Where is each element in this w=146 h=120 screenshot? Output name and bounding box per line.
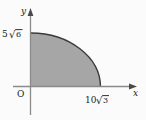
x-intercept-coefficient: 10 (85, 95, 97, 105)
shaded-region (31, 33, 101, 87)
origin-label: O (17, 89, 24, 99)
y-intercept-radicand: 6 (16, 30, 21, 39)
x-intercept-radical-icon: √ (96, 95, 103, 106)
y-axis-arrowhead (28, 8, 34, 16)
x-intercept-radicand: 3 (103, 96, 108, 105)
x-intercept-tick-label: 10 √ 3 (85, 95, 109, 106)
quarter-ellipse-figure: y x O 5 √ 6 10 √ 3 (0, 0, 146, 120)
y-intercept-coefficient: 5 (2, 29, 8, 39)
x-axis-label: x (133, 88, 138, 98)
y-intercept-radical-icon: √ (9, 29, 16, 40)
y-intercept-tick-label: 5 √ 6 (2, 29, 23, 40)
figure-container: y x O 5 √ 6 10 √ 3 (0, 0, 146, 120)
y-axis-label: y (20, 6, 27, 16)
